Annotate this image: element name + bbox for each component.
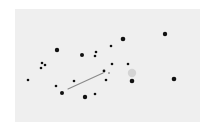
- dot-20[interactable]: [105, 79, 108, 82]
- dot-field[interactable]: [0, 0, 208, 132]
- dot-18[interactable]: [127, 63, 130, 66]
- dot-0[interactable]: [55, 48, 59, 52]
- dot-15[interactable]: [94, 55, 97, 58]
- dot-3[interactable]: [163, 32, 167, 36]
- dot-11[interactable]: [27, 79, 30, 82]
- hover-highlight: [128, 69, 136, 77]
- dot-8[interactable]: [41, 62, 44, 65]
- dot-4[interactable]: [130, 79, 135, 84]
- cursor-dot: [108, 72, 110, 74]
- dot-12[interactable]: [55, 85, 58, 88]
- dot-21[interactable]: [94, 93, 97, 96]
- dot-16[interactable]: [110, 45, 113, 48]
- dot-6[interactable]: [60, 91, 64, 95]
- dot-13[interactable]: [73, 80, 76, 83]
- dot-1[interactable]: [80, 53, 84, 57]
- dot-19[interactable]: [103, 70, 106, 73]
- dot-14[interactable]: [95, 51, 98, 54]
- dots-group: [27, 32, 177, 99]
- dot-10[interactable]: [40, 67, 43, 70]
- dot-17[interactable]: [111, 63, 114, 66]
- dot-9[interactable]: [44, 64, 47, 67]
- dot-7[interactable]: [83, 95, 87, 99]
- dot-2[interactable]: [121, 37, 126, 42]
- dot-5[interactable]: [172, 77, 177, 82]
